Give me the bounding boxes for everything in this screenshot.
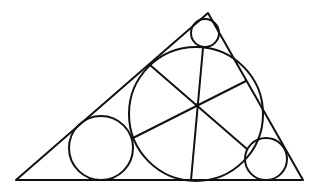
spoke-line-2: [191, 48, 203, 180]
center-point: [195, 103, 199, 107]
spoke-line-3: [133, 81, 246, 138]
left-circle: [69, 116, 133, 180]
top-circle: [191, 19, 219, 47]
right-circle: [245, 138, 287, 180]
geometry-diagram: [0, 0, 319, 194]
spokes-group: [133, 48, 247, 180]
circles-group: [69, 19, 287, 181]
